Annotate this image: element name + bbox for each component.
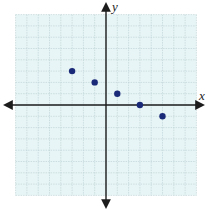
data-point (69, 68, 75, 74)
x-axis-label: x (198, 88, 205, 103)
data-point (137, 102, 143, 108)
data-point (159, 113, 165, 119)
data-point (92, 79, 98, 85)
data-point (114, 91, 120, 97)
coordinate-plane: x y (0, 0, 206, 211)
y-axis-label: y (110, 0, 118, 14)
